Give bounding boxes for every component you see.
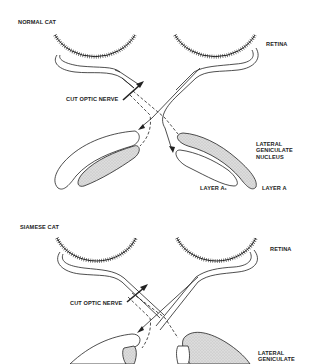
diagram-canvas (0, 0, 311, 364)
retina-label: RETINA (266, 41, 287, 47)
cut-optic-nerve-label: CUT OPTIC NERVE (66, 96, 118, 102)
lgn-label: LATERAL GENICULATE NUCLEUS (256, 141, 293, 160)
retina-label: RETINA (270, 246, 291, 252)
left-lgn-icon (55, 131, 139, 189)
crossing-fiber (140, 68, 200, 128)
right-retina-icon (175, 35, 258, 95)
lgn-label: LATERAL GENICULATE (258, 350, 295, 363)
cut-optic-nerve-label: CUT OPTIC NERVE (70, 300, 122, 306)
normal-cat-panel (55, 35, 258, 189)
right-retina-icon (156, 238, 257, 330)
left-lgn-icon (70, 334, 140, 364)
cut-arrow-icon (123, 81, 144, 100)
left-retina-icon (55, 35, 138, 88)
layer-a-label: LAYER A (262, 185, 287, 191)
layer-a1-label: LAYER A₁ (200, 185, 227, 191)
panel-title-siamese-cat: SIAMESE CAT (20, 224, 59, 230)
panel-title-normal-cat: NORMAL CAT (18, 19, 56, 25)
cut-arrow-icon (127, 284, 148, 302)
right-lgn-icon (177, 332, 251, 364)
right-lgn-icon (176, 133, 256, 189)
